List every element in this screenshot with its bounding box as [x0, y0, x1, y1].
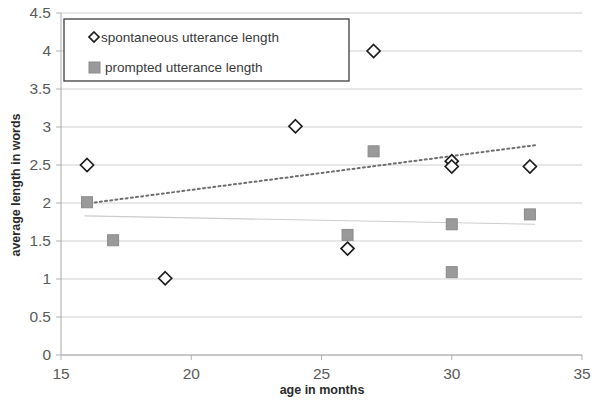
trendlines [84, 145, 535, 224]
y-tick-label: 1.5 [29, 232, 51, 249]
data-point-spontaneous [159, 272, 172, 285]
data-point-spontaneous [341, 242, 354, 255]
data-point-prompted [342, 229, 353, 240]
legend-label-prompted: prompted utterance length [105, 60, 263, 75]
x-tick-label: 20 [183, 365, 201, 382]
y-tick-label: 4.5 [29, 4, 51, 21]
y-axis-title: average length in words [9, 113, 23, 256]
data-point-prompted [524, 209, 535, 220]
y-tick-labels: 00.511.522.533.544.5 [29, 4, 51, 363]
data-point-spontaneous [367, 45, 380, 58]
data-point-prompted [368, 146, 379, 157]
x-tick-label: 30 [443, 365, 461, 382]
trendline [84, 145, 535, 204]
y-tick-label: 4 [42, 42, 51, 59]
y-tick-label: 0 [42, 346, 51, 363]
y-tick-label: 1 [42, 270, 51, 287]
legend-square-icon [89, 62, 100, 73]
legend-label-spontaneous: spontaneous utterance length [101, 30, 279, 45]
x-tick-label: 35 [573, 365, 590, 382]
x-tick-label: 15 [52, 365, 69, 382]
trendline [84, 216, 535, 224]
y-tick-label: 0.5 [29, 308, 51, 325]
data-point-prompted [446, 267, 457, 278]
data-point-prompted [82, 197, 93, 208]
y-tick-label: 2.5 [29, 156, 51, 173]
series-prompted-utterance-length [82, 146, 536, 278]
data-point-prompted [446, 219, 457, 230]
chart-figure: 00.511.522.533.544.5 1520253035 spontane… [0, 0, 603, 404]
data-point-spontaneous [81, 159, 94, 172]
chart-legend: spontaneous utterance length prompted ut… [64, 19, 349, 81]
x-tick-labels: 1520253035 [52, 365, 590, 382]
data-point-prompted [108, 235, 119, 246]
x-tick-label: 25 [313, 365, 330, 382]
data-point-spontaneous [289, 120, 302, 133]
y-tick-label: 2 [42, 194, 51, 211]
y-tick-label: 3 [42, 118, 51, 135]
scatter-plot: 00.511.522.533.544.5 1520253035 spontane… [0, 0, 603, 404]
data-point-spontaneous [523, 160, 536, 173]
y-tick-label: 3.5 [29, 80, 51, 97]
x-axis-title: age in months [280, 383, 365, 397]
